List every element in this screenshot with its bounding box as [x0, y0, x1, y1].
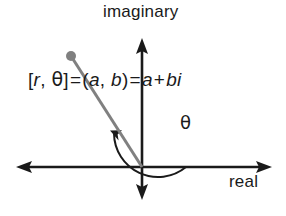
sum-a-term: a — [142, 69, 153, 90]
polar-comma: , — [40, 69, 51, 90]
rect-a-variable: a — [89, 69, 100, 90]
theta-angle-label: θ — [180, 112, 191, 133]
rect-comma: , — [100, 69, 111, 90]
complex-plane-diagram: imaginary real θ [r, θ]=(a, b)=a+bi — [0, 0, 286, 216]
real-axis-label: real — [229, 172, 258, 192]
equals-sign-two: = — [129, 69, 142, 90]
rect-open-paren: ( — [82, 69, 89, 90]
plus-sign: + — [153, 69, 166, 90]
vector-endpoint-dot — [66, 51, 76, 61]
imaginary-axis-label: imaginary — [103, 2, 179, 22]
equation-expression: [r, θ]=(a, b)=a+bi — [28, 68, 182, 91]
rect-close-paren: ) — [122, 69, 129, 90]
equals-sign-one: = — [69, 69, 82, 90]
rect-b-variable: b — [111, 69, 122, 90]
sum-bi-term: bi — [166, 69, 181, 90]
polar-theta-variable: θ — [51, 68, 63, 90]
